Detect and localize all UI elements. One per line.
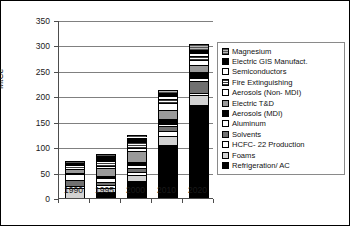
y-axis-title: MtCe [0, 69, 5, 89]
bar-segment [96, 161, 116, 166]
y-tick-mark [54, 97, 58, 98]
legend-item-label: Aerosols (MDI) [232, 109, 283, 118]
legend-item[interactable]: Electric T&D [222, 98, 341, 108]
bar-segment [127, 151, 147, 162]
bar-segment [127, 175, 147, 182]
bar-segment [189, 93, 209, 95]
bar-segment [96, 154, 116, 156]
x-tick-label: 1990 [58, 185, 89, 195]
legend-swatch-icon [222, 120, 229, 127]
legend-item[interactable]: Aerosols (MDI) [222, 108, 341, 118]
legend-item-label: Semiconductors [232, 67, 286, 76]
legend-item-label: HCFC- 22 Production [232, 140, 305, 149]
legend-swatch-icon [222, 110, 229, 117]
bar-segment [65, 169, 85, 174]
bar-segment [189, 44, 209, 49]
legend-item[interactable]: Solvents [222, 129, 341, 139]
legend-item-label: Aluminum [232, 119, 266, 128]
bar-segment [127, 168, 147, 172]
x-tick-mark [89, 199, 90, 203]
legend-item-label: Solvents [232, 130, 261, 139]
bar-segment [127, 138, 147, 141]
bar-segment [96, 176, 116, 178]
bar-segment [96, 160, 116, 161]
legend-item[interactable]: Fire Extinguishing [222, 77, 341, 87]
legend-swatch-icon [222, 131, 229, 138]
y-tick-label: 150 [16, 119, 50, 127]
legend-item[interactable]: Aerosols (Non- MDI) [222, 88, 341, 98]
chart-legend: MagnesiumElectric GIS Manufact.Semicondu… [217, 42, 345, 175]
legend-item[interactable]: HCFC- 22 Production [222, 140, 341, 150]
bar-segment [158, 124, 178, 127]
legend-swatch-icon [222, 141, 229, 148]
legend-swatch-icon [222, 100, 229, 107]
legend-item-label: Magnesium [232, 47, 271, 56]
y-tick-label: 350 [16, 17, 50, 25]
bar-segment [65, 165, 85, 168]
bar-segment [96, 178, 116, 182]
x-tick-label: 2010 [151, 185, 182, 195]
y-tick-mark [54, 72, 58, 73]
bar-segment [189, 50, 209, 54]
bar-segment [65, 173, 85, 174]
bar-segment [127, 172, 147, 175]
x-tick-label: 2000 [120, 185, 151, 195]
y-tick-mark [54, 46, 58, 47]
bar-segment [158, 119, 178, 124]
x-tick-mark [213, 199, 214, 203]
plot-area [58, 21, 213, 199]
bar-segment [96, 168, 116, 176]
legend-item[interactable]: Semiconductors [222, 67, 341, 77]
legend-swatch-icon [222, 58, 229, 65]
bar-segment [158, 93, 178, 96]
legend-item[interactable]: Aluminum [222, 119, 341, 129]
legend-item[interactable]: Refrigeration/ AC [222, 160, 341, 170]
legend-item[interactable]: Magnesium [222, 46, 341, 56]
x-tick-mark [182, 199, 183, 203]
legend-item-label: Electric T&D [232, 99, 274, 108]
legend-item-label: Aerosols (Non- MDI) [232, 88, 301, 97]
bar-segment [96, 166, 116, 168]
legend-item[interactable]: Electric GIS Manufact. [222, 56, 341, 66]
bar-segment [158, 103, 178, 110]
x-tick-label: 1995 [89, 185, 120, 195]
legend-item-label: Electric GIS Manufact. [232, 57, 308, 66]
bar-segment [158, 99, 178, 104]
legend-item-label: Fire Extinguishing [232, 78, 292, 87]
y-tick-mark [54, 21, 58, 22]
bar-segment [65, 163, 85, 165]
y-tick-mark [54, 123, 58, 124]
bar-segment [158, 136, 178, 144]
legend-swatch-icon [222, 162, 229, 169]
legend-item-label: Foams [232, 151, 255, 160]
legend-swatch-icon [222, 68, 229, 75]
bar-segment [158, 131, 178, 137]
bar-segment [189, 65, 209, 73]
bar-2010 [158, 90, 178, 198]
x-tick-mark [58, 199, 59, 203]
legend-swatch-icon [222, 79, 229, 86]
bar-segment [158, 126, 178, 131]
bar-segment [65, 174, 85, 180]
bar-segment [127, 141, 147, 143]
bar-segment [189, 72, 209, 78]
bar-segment [189, 78, 209, 81]
legend-swatch-icon [222, 89, 229, 96]
x-tick-mark [120, 199, 121, 203]
bar-segment [189, 56, 209, 60]
legend-item[interactable]: Foams [222, 150, 341, 160]
bar-segment [189, 53, 209, 56]
gridline [59, 21, 213, 22]
bar-segment [65, 161, 85, 163]
y-tick-label: 200 [16, 93, 50, 101]
bar-segment [127, 148, 147, 151]
bar-segment [127, 142, 147, 148]
y-tick-mark [54, 148, 58, 149]
bar-segment [65, 167, 85, 168]
x-tick-label: 2020 [182, 185, 213, 195]
x-tick-mark [151, 199, 152, 203]
bar-segment [127, 162, 147, 165]
bar-segment [127, 135, 147, 137]
legend-swatch-icon [222, 48, 229, 55]
y-tick-label: 50 [16, 170, 50, 178]
